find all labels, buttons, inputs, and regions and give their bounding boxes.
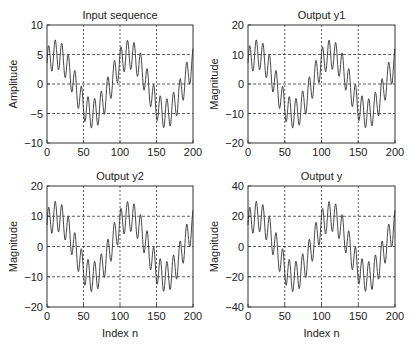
x-tick-label: 200 <box>386 146 404 158</box>
subplot-3: 050100150200−20−1001020Output y2Magnitud… <box>7 170 202 339</box>
x-tick-label: 150 <box>349 310 367 322</box>
x-tick-label: 200 <box>184 310 202 322</box>
x-tick-label: 50 <box>279 146 291 158</box>
figure: 050100150200−10−50510Input sequenceAmpli… <box>0 0 418 345</box>
y-tick-label: 0 <box>37 241 43 253</box>
y-tick-label: −10 <box>225 108 244 120</box>
x-tick-label: 0 <box>44 146 50 158</box>
y-axis-label: Magnitude <box>7 221 19 272</box>
subplot-title: Output y1 <box>298 9 346 21</box>
subplot-2: 050100150200−20−1001020Output y1Magnitud… <box>208 9 404 158</box>
x-tick-label: 0 <box>245 146 251 158</box>
y-tick-label: −10 <box>24 137 43 149</box>
y-tick-label: 0 <box>238 241 244 253</box>
x-axis-label: Index n <box>303 327 339 339</box>
x-tick-label: 50 <box>77 146 89 158</box>
subplot-4: 050100150200−40−2002040Output yMagnitude… <box>208 170 404 339</box>
y-tick-label: −20 <box>225 271 244 283</box>
y-tick-label: 10 <box>31 19 43 31</box>
y-tick-label: 10 <box>31 210 43 222</box>
y-tick-label: 0 <box>37 78 43 90</box>
x-axis-label: Index n <box>102 327 138 339</box>
subplot-title: Output y2 <box>96 170 144 182</box>
x-tick-label: 150 <box>147 146 165 158</box>
figure-canvas: 050100150200−10−50510Input sequenceAmpli… <box>0 0 418 345</box>
subplot-title: Input sequence <box>82 9 157 21</box>
y-tick-label: 0 <box>238 78 244 90</box>
x-tick-label: 100 <box>312 310 330 322</box>
x-tick-label: 50 <box>77 310 89 322</box>
y-tick-label: −5 <box>30 108 43 120</box>
y-tick-label: 20 <box>232 19 244 31</box>
x-tick-label: 200 <box>386 310 404 322</box>
x-tick-label: 100 <box>111 310 129 322</box>
y-tick-label: 20 <box>232 210 244 222</box>
x-tick-label: 100 <box>312 146 330 158</box>
y-tick-label: −40 <box>225 301 244 313</box>
x-tick-label: 100 <box>111 146 129 158</box>
subplot-title: Output y <box>301 170 343 182</box>
x-tick-label: 150 <box>349 146 367 158</box>
y-tick-label: −10 <box>24 271 43 283</box>
y-axis-label: Magnitude <box>208 58 220 109</box>
x-tick-label: 200 <box>184 146 202 158</box>
x-tick-label: 50 <box>279 310 291 322</box>
y-tick-label: 10 <box>232 49 244 61</box>
y-tick-label: 40 <box>232 180 244 192</box>
y-tick-label: −20 <box>225 137 244 149</box>
x-tick-label: 0 <box>245 310 251 322</box>
y-axis-label: Magnitude <box>208 221 220 272</box>
y-axis-label: Amplitude <box>7 60 19 109</box>
x-tick-label: 0 <box>44 310 50 322</box>
y-tick-label: 5 <box>37 49 43 61</box>
y-tick-label: 20 <box>31 180 43 192</box>
x-tick-label: 150 <box>147 310 165 322</box>
y-tick-label: −20 <box>24 301 43 313</box>
subplot-1: 050100150200−10−50510Input sequenceAmpli… <box>7 9 202 158</box>
